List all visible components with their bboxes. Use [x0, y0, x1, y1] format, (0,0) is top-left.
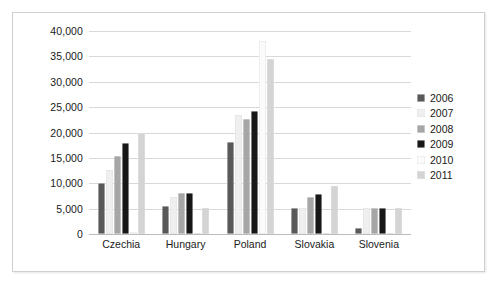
legend-item: 2010	[417, 152, 479, 168]
y-axis-tick-label: 25,000	[29, 101, 83, 113]
bar	[235, 115, 242, 234]
y-axis-tick-label: 0	[29, 228, 83, 240]
legend-item: 2011	[417, 168, 479, 184]
y-axis-tick-label: 20,000	[29, 127, 83, 139]
legend-swatch-icon	[417, 109, 425, 117]
legend-item: 2007	[417, 106, 479, 122]
x-axis-category-label: Czechia	[89, 238, 153, 250]
legend-item: 2008	[417, 121, 479, 137]
bar	[162, 206, 169, 234]
bar	[371, 208, 378, 234]
bar-group	[282, 31, 346, 234]
x-axis-category-label: Hungary	[153, 238, 217, 250]
bar	[387, 233, 394, 234]
bar	[299, 208, 306, 234]
y-axis-tick-label: 30,000	[29, 76, 83, 88]
bar	[202, 208, 209, 234]
x-axis-category-label: Poland	[218, 238, 282, 250]
bar-group	[89, 31, 153, 234]
bar	[114, 156, 121, 234]
bar	[243, 119, 250, 234]
bar	[186, 193, 193, 234]
bar	[227, 142, 234, 234]
legend-swatch-icon	[417, 171, 425, 179]
bars-layer	[89, 31, 411, 234]
bar	[363, 208, 370, 234]
legend-label: 2011	[430, 169, 453, 181]
legend-item: 2006	[417, 90, 479, 106]
y-axis-tick-label: 5,000	[29, 203, 83, 215]
bar	[323, 233, 330, 234]
bar	[331, 186, 338, 234]
bar	[379, 208, 386, 234]
bar-group	[218, 31, 282, 234]
chart-frame: 05,00010,00015,00020,00025,00030,00035,0…	[12, 12, 485, 272]
bar	[138, 133, 145, 235]
legend-label: 2006	[430, 92, 453, 104]
bar	[355, 228, 362, 234]
bar	[307, 197, 314, 234]
bar	[395, 208, 402, 234]
x-axis: CzechiaHungaryPolandSlovakiaSlovenia	[89, 238, 411, 250]
y-axis-tick-label: 15,000	[29, 152, 83, 164]
bar	[130, 232, 137, 234]
plot-wrapper: 05,00010,00015,00020,00025,00030,00035,0…	[13, 13, 484, 271]
bar-group	[347, 31, 411, 234]
legend-label: 2010	[430, 154, 453, 166]
y-axis-tick-label: 35,000	[29, 50, 83, 62]
bar	[106, 170, 113, 234]
bar-group	[153, 31, 217, 234]
legend-label: 2008	[430, 123, 453, 135]
y-axis: 05,00010,00015,00020,00025,00030,00035,0…	[29, 13, 83, 271]
legend-label: 2009	[430, 138, 453, 150]
bar	[194, 233, 201, 234]
bar	[170, 197, 177, 234]
axis-baseline	[89, 234, 411, 235]
y-axis-tick-label: 40,000	[29, 25, 83, 37]
chart-legend: 200620072008200920102011	[417, 90, 479, 183]
x-axis-category-label: Slovenia	[347, 238, 411, 250]
bar	[291, 208, 298, 234]
legend-swatch-icon	[417, 125, 425, 133]
bar	[122, 143, 129, 234]
legend-swatch-icon	[417, 156, 425, 164]
x-axis-category-label: Slovakia	[282, 238, 346, 250]
legend-swatch-icon	[417, 140, 425, 148]
plot-area	[89, 31, 411, 234]
bar	[315, 194, 322, 234]
legend-item: 2009	[417, 137, 479, 153]
bar	[251, 111, 258, 234]
legend-label: 2007	[430, 107, 453, 119]
bar	[178, 193, 185, 234]
bar	[98, 183, 105, 234]
bar	[259, 41, 266, 234]
y-axis-tick-label: 10,000	[29, 177, 83, 189]
legend-swatch-icon	[417, 94, 425, 102]
bar	[267, 59, 274, 234]
